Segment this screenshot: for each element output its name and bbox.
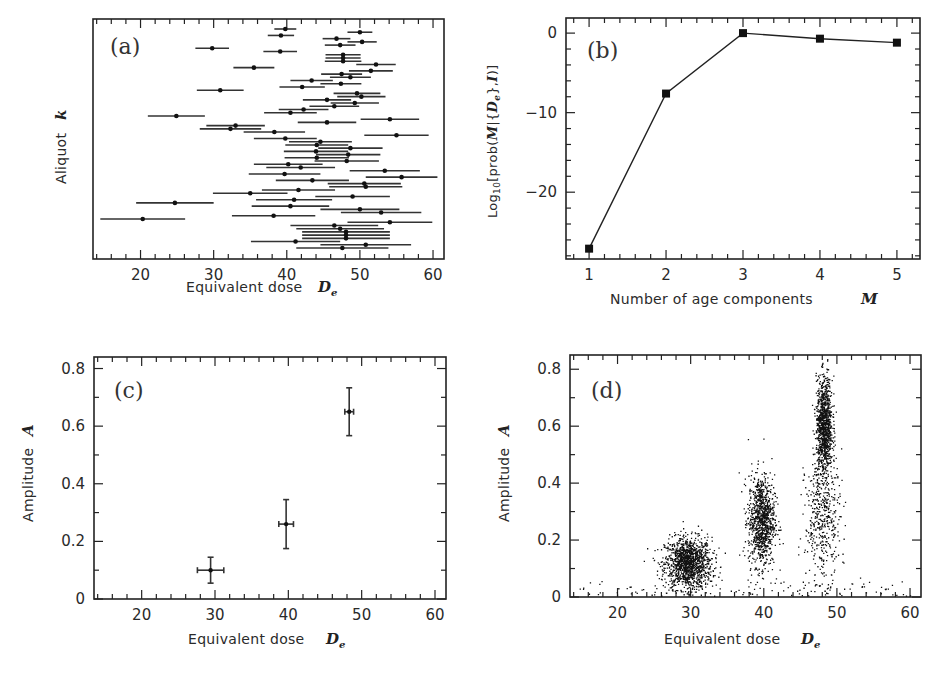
- y-tick-label: −10: [525, 104, 557, 122]
- panel-a: 2030405060 (a) Equivalent dose De Aliquo…: [52, 19, 444, 298]
- panel-c-frame: [94, 357, 446, 599]
- data-point: [272, 130, 277, 135]
- x-tick-label: 1: [584, 266, 594, 284]
- data-point: [318, 139, 323, 144]
- panel-b-frame: [566, 18, 920, 259]
- data-point: [218, 88, 223, 93]
- data-point: [314, 143, 319, 148]
- x-tick-label: 40: [279, 606, 298, 624]
- y-tick-label: 0.2: [61, 532, 85, 550]
- x-tick-label: 30: [681, 604, 700, 622]
- data-point: [310, 178, 315, 183]
- y-tick-label: 0: [75, 590, 85, 608]
- panel-d-scatter: [580, 359, 912, 597]
- panel-b-xlabel: Number of age components: [610, 291, 813, 307]
- panel-c-ylabel-symbol: A: [19, 424, 37, 438]
- x-tick-label: 4: [815, 266, 825, 284]
- data-point: [140, 217, 145, 222]
- panel-d-ylabel-symbol: A: [495, 424, 513, 438]
- panel-d-ylabel: Amplitude: [496, 448, 512, 522]
- data-point: [360, 40, 365, 45]
- data-point: [359, 94, 364, 99]
- data-point: [338, 226, 343, 231]
- y-tick-label: 0.6: [537, 417, 561, 435]
- panel-c-xlabel: Equivalent dose: [188, 631, 305, 647]
- x-tick-label: 5: [892, 266, 902, 284]
- data-point: [325, 98, 330, 103]
- data-point: [288, 204, 293, 209]
- panel-b: 123450−10−20 (b) Number of age component…: [485, 18, 920, 308]
- data-point: [210, 46, 215, 51]
- data-point: [363, 242, 368, 247]
- panel-c: 203040506000.20.40.60.8 (c) Equivalent d…: [19, 357, 446, 650]
- y-tick-label: 0.2: [537, 531, 561, 549]
- data-point: [300, 85, 305, 90]
- data-point: [379, 210, 384, 215]
- data-point: [382, 168, 387, 173]
- data-point: [339, 81, 344, 86]
- y-tick-label: 0.4: [537, 474, 561, 492]
- x-tick-label: 20: [608, 604, 627, 622]
- data-point: [228, 127, 233, 132]
- data-point: [399, 175, 404, 180]
- y-tick-label: 0.8: [61, 360, 85, 378]
- data-point: [173, 201, 178, 206]
- data-point: [388, 117, 393, 122]
- square-marker: [816, 35, 824, 43]
- data-point: [278, 49, 283, 54]
- data-point: [341, 59, 346, 64]
- data-point: [338, 43, 343, 48]
- data-point: [279, 33, 284, 38]
- data-point: [374, 62, 379, 67]
- panel-b-ticks: 123450−10−20: [525, 18, 920, 284]
- data-point: [293, 239, 298, 244]
- panel-d-frame: [570, 355, 921, 597]
- data-point: [347, 410, 351, 414]
- panel-b-line: [585, 29, 901, 253]
- data-point: [174, 114, 179, 119]
- data-point: [309, 78, 314, 83]
- data-point: [325, 120, 330, 125]
- data-point: [358, 30, 363, 35]
- panel-d-xlabel-symbol: De: [800, 630, 820, 650]
- data-point: [388, 220, 393, 225]
- x-tick-label: 40: [754, 604, 773, 622]
- panel-d: 203040506000.20.40.60.8 (d) Equivalent d…: [495, 355, 921, 650]
- y-tick-label: 0.8: [537, 360, 561, 378]
- data-point: [340, 246, 345, 251]
- panel-a-tag: (a): [110, 34, 140, 59]
- data-point: [358, 207, 363, 212]
- y-tick-label: −20: [525, 183, 557, 201]
- y-tick-label: 0.4: [61, 475, 85, 493]
- data-point: [252, 65, 257, 70]
- data-point: [284, 522, 288, 526]
- data-point: [348, 146, 353, 151]
- square-marker: [893, 39, 901, 47]
- data-point: [352, 101, 357, 106]
- data-point: [369, 69, 374, 74]
- panel-a-ylabel-symbol: k: [52, 110, 70, 120]
- data-point: [248, 191, 253, 196]
- data-point: [283, 136, 288, 141]
- panel-a-xlabel-symbol: De: [317, 278, 337, 298]
- x-tick-label: 50: [352, 606, 371, 624]
- data-point: [208, 568, 212, 572]
- data-point: [332, 104, 337, 109]
- panel-b-xlabel-symbol: M: [860, 290, 878, 308]
- data-point: [344, 159, 349, 164]
- data-point: [348, 75, 353, 80]
- panel-a-ylabel: Aliquot: [53, 133, 69, 184]
- data-point: [363, 185, 368, 190]
- panel-a-errorbars: [100, 27, 437, 251]
- data-point: [355, 91, 360, 96]
- data-point: [350, 194, 355, 199]
- y-tick-label: 0: [547, 24, 557, 42]
- panel-d-xlabel: Equivalent dose: [664, 631, 781, 647]
- x-tick-label: 50: [350, 266, 369, 284]
- data-point: [282, 172, 287, 177]
- figure: 2030405060 (a) Equivalent dose De Aliquo…: [0, 0, 936, 675]
- data-point: [283, 27, 288, 32]
- x-tick-label: 20: [131, 266, 150, 284]
- data-point: [301, 107, 306, 112]
- data-point: [296, 188, 301, 193]
